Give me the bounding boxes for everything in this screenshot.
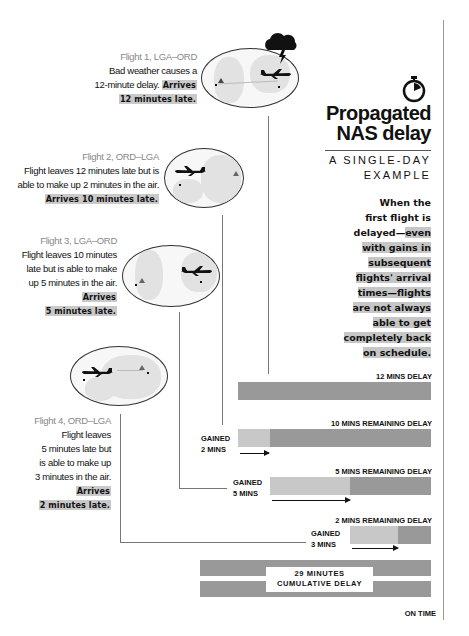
- bar-2-arrow: [240, 453, 269, 454]
- airport-dot: [83, 379, 85, 381]
- flight-2-title: Flight 2, ORD–LGA: [0, 150, 159, 164]
- title-line-2: NAS delay: [271, 123, 431, 143]
- flight-1-line2-row: 12-minute delay. Arrives: [27, 78, 197, 92]
- flight-3-title: Flight 3, LGA–ORD: [0, 234, 117, 248]
- on-time-label: ON TIME: [405, 609, 436, 618]
- airport-dot: [179, 184, 181, 186]
- flight-4-highlight-row-1: Arrives: [0, 484, 111, 498]
- subtitle: A SINGLE-DAY EXAMPLE: [271, 153, 431, 183]
- bar-3-label: 5 MINS REMAINING DELAY: [335, 467, 432, 476]
- bar-3-arrow: [272, 500, 350, 501]
- connector-line: [120, 414, 121, 542]
- stopwatch-icon: [400, 75, 428, 103]
- title-divider: [325, 150, 431, 151]
- title-line-1: Propagated: [271, 103, 431, 123]
- flight-1-text: Flight 1, LGA–ORD Bad weather causes a 1…: [27, 50, 197, 106]
- connector-line: [179, 312, 180, 488]
- cumulative-line-2: CUMULATIVE DELAY: [266, 579, 373, 589]
- summary-highlight: subsequent: [368, 257, 431, 268]
- gained-mins: 5 MINS: [233, 488, 262, 499]
- airport-dot: [215, 84, 217, 86]
- flight-2-map: [164, 148, 244, 208]
- airport-dot: [200, 281, 202, 283]
- bar-4-label: 2 MINS REMAINING DELAY: [335, 516, 432, 525]
- flight-4-title: Flight 4, ORD–LGA: [0, 414, 111, 428]
- summary-highlight: are not always: [353, 302, 431, 313]
- flight-4-text: Flight 4, ORD–LGA Flight leaves 5 minute…: [0, 414, 111, 512]
- destination-marker-icon: [139, 365, 145, 370]
- flight-3-highlight-row-1: Arrives: [0, 290, 117, 304]
- bar-2-label: 10 MINS REMAINING DELAY: [331, 419, 432, 428]
- summary-line: When the: [301, 195, 431, 210]
- flight-4-arrives-highlight: Arrives: [76, 486, 111, 496]
- summary-plain: delayed—: [354, 227, 406, 238]
- bar-2-gained: [238, 429, 270, 447]
- bar-4-arrow: [352, 548, 398, 549]
- summary-highlight: completely back: [344, 332, 431, 343]
- flight-1-arrives-highlight: Arrives: [162, 80, 197, 90]
- flight-2-line2: able to make up 2 minutes in the air.: [0, 178, 159, 192]
- summary-highlight: flights' arrival: [356, 272, 431, 283]
- flight-2-text: Flight 2, ORD–LGA Flight leaves 12 minut…: [0, 150, 159, 206]
- flight-1-line2: 12-minute delay.: [95, 79, 160, 90]
- airplane-icon: [259, 68, 293, 80]
- bar-4-gained: [350, 526, 398, 544]
- gained-mins: 2 MINS: [201, 444, 230, 455]
- gained-text: GAINED: [233, 477, 262, 488]
- summary-highlight: on schedule.: [363, 347, 431, 358]
- airplane-icon: [173, 165, 207, 177]
- airport-dot: [147, 372, 149, 374]
- bar-3-gained: [270, 477, 350, 495]
- origin-marker-icon: [139, 278, 145, 283]
- gained-mins: 3 MINS: [311, 539, 340, 550]
- bar-2-delay: [270, 429, 431, 447]
- page-title: Propagated NAS delay: [271, 103, 431, 143]
- bar-3-delay: [350, 477, 431, 495]
- storm-cloud-icon: [262, 30, 302, 66]
- flight-3-text: Flight 3, LGA–ORD Flight leaves 10 minut…: [0, 234, 117, 318]
- flight-2-line1: Flight leaves 12 minutes late but is: [0, 164, 159, 178]
- summary-text: When the first flight is delayed—even wi…: [301, 195, 431, 360]
- flight-1-line1: Bad weather causes a: [27, 64, 197, 78]
- flight-4-line1: Flight leaves: [0, 428, 111, 442]
- connector-line: [268, 116, 269, 374]
- flight-3-line1: Flight leaves 10 minutes: [0, 248, 117, 262]
- flight-3-line2: late but is able to make: [0, 262, 117, 276]
- gained-text: GAINED: [201, 433, 230, 444]
- subtitle-line-2: EXAMPLE: [271, 168, 431, 183]
- flight-4-line2: 5 minutes late but: [0, 442, 111, 456]
- connector-line: [222, 215, 223, 425]
- cumulative-delay-label: 29 MINUTES CUMULATIVE DELAY: [266, 567, 373, 592]
- airplane-icon: [180, 265, 214, 277]
- summary-highlight: able to get: [373, 317, 431, 328]
- summary-highlight: with gains in: [362, 242, 431, 253]
- airport-dot: [135, 284, 137, 286]
- bar-3-gained-label: GAINED 5 MINS: [233, 477, 262, 499]
- bar-1-label: 12 MINS DELAY: [376, 372, 432, 381]
- flight-4-late-highlight: 2 minutes late.: [39, 500, 111, 510]
- airport-dot: [278, 86, 280, 88]
- route-line: [117, 370, 143, 371]
- flight-2-arrives-highlight: Arrives 10 minutes late.: [45, 194, 159, 204]
- bar-4-gained-label: GAINED 3 MINS: [311, 528, 340, 550]
- flight-3-highlight-row-2: 5 minutes late.: [0, 304, 117, 318]
- flight-4-line3: is able to make up: [0, 456, 111, 470]
- bar-4-delay: [398, 526, 431, 544]
- destination-marker-icon: [233, 171, 239, 176]
- summary-line: first flight is: [301, 210, 431, 225]
- flight-1-late-highlight: 12 minutes late.: [119, 94, 197, 104]
- airplane-icon: [80, 366, 114, 378]
- summary-highlight: times—flights: [358, 287, 431, 298]
- flight-1-highlight-row: 12 minutes late.: [27, 92, 197, 106]
- flight-3-arrives-highlight: Arrives: [82, 292, 117, 302]
- bar-1-delay: [238, 382, 431, 400]
- origin-marker-icon: [218, 78, 224, 83]
- connector-line: [120, 542, 306, 543]
- connector-line: [179, 488, 227, 489]
- flight-3-late-highlight: 5 minutes late.: [45, 306, 117, 316]
- right-divider: [443, 20, 444, 620]
- flight-1-title: Flight 1, LGA–ORD: [27, 50, 197, 64]
- flight-4-line4: 3 minutes in the air.: [0, 470, 111, 484]
- flight-2-highlight-row: Arrives 10 minutes late.: [0, 192, 159, 206]
- bar-2-gained-label: GAINED 2 MINS: [201, 433, 230, 455]
